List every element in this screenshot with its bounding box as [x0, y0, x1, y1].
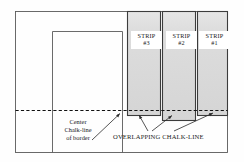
- center-chalk-line-label-line1: Center: [69, 118, 86, 125]
- center-chalk-line-label: CenterChalk-lineof border: [54, 118, 102, 143]
- strip-2-label: STRIP#2: [166, 31, 197, 49]
- center-chalk-line-label-line3: of border: [66, 134, 90, 141]
- overlap-leader-left: [139, 115, 148, 131]
- diagram-figure: STRIP#3 STRIP#2 STRIP#1 CenterChalk-line…: [0, 0, 244, 162]
- strip-2-label-line1: STRIP: [172, 32, 190, 39]
- strip-2-label-line2: #2: [178, 39, 185, 46]
- strip-3-label-line2: #3: [143, 39, 150, 46]
- strip-1-label: STRIP#1: [199, 31, 230, 49]
- strip-3-label: STRIP#3: [131, 31, 162, 49]
- overlapping-chalk-line-text: OVERLAPPING CHALK-LINE: [113, 133, 204, 140]
- strip-3-shape[interactable]: [128, 12, 161, 116]
- overlapping-chalk-line-label: OVERLAPPING CHALK-LINE: [113, 133, 204, 140]
- strip-1-label-line1: STRIP: [205, 32, 223, 39]
- strip-group: [128, 12, 228, 121]
- strip-1-label-line2: #1: [211, 39, 218, 46]
- strip-3-label-line1: STRIP: [137, 32, 155, 39]
- strip-2-shape[interactable]: [163, 12, 196, 121]
- center-chalk-line-label-line2: Chalk-line: [65, 126, 92, 133]
- strip-1-shape[interactable]: [198, 12, 228, 116]
